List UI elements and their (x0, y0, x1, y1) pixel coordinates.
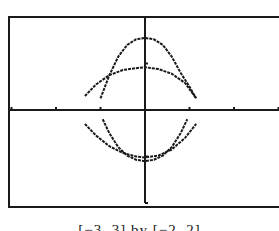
window-caption: [−3, 3] by [−2, 2] (0, 222, 279, 231)
curve (85, 124, 196, 157)
graphing-calculator-screen (0, 0, 279, 215)
plotted-curves (85, 38, 196, 161)
